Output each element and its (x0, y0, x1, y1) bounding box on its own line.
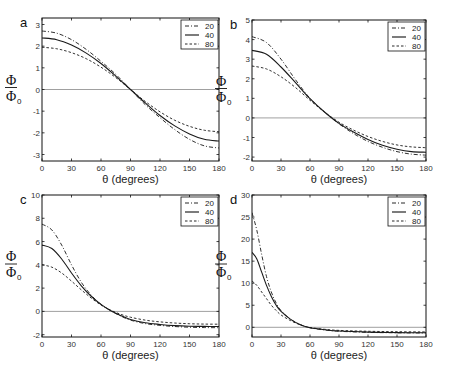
y-tick-label: 2 (36, 42, 41, 51)
svg-text:0: 0 (17, 97, 22, 106)
legend-label: 20 (412, 24, 421, 33)
series-line-40 (252, 50, 426, 152)
legend-label: 80 (205, 217, 214, 226)
panel-letter: c (20, 192, 27, 207)
y-tick-label: -3 (33, 151, 41, 160)
y-tick-label: 2 (36, 284, 41, 293)
x-tick-label: 30 (67, 340, 76, 349)
legend-label: 20 (205, 199, 214, 208)
x-tick-label: 90 (126, 340, 135, 349)
x-tick-label: 90 (126, 164, 135, 173)
x-tick-label: 120 (153, 340, 167, 349)
panel-c: 0306090120150180-20246810θ (degrees)cΦΦ0… (5, 191, 226, 361)
legend: 204080 (388, 197, 425, 226)
series-line-80 (252, 281, 426, 332)
y-tick-label: 5 (246, 301, 251, 310)
x-axis-label: θ (degrees) (102, 173, 158, 185)
y-tick-label: 0 (246, 114, 251, 123)
series-group (252, 37, 426, 155)
series-line-20 (252, 213, 426, 333)
y-tick-label: -2 (33, 331, 41, 340)
y-tick-label: -2 (33, 129, 41, 138)
y-tick-label: 1 (36, 64, 41, 73)
svg-text:0: 0 (227, 273, 232, 282)
legend-label: 20 (205, 22, 214, 31)
y-tick-label: -1 (33, 107, 41, 116)
y-tick-label: 5 (246, 16, 251, 25)
legend: 204080 (181, 20, 218, 49)
y-tick-label: -1 (243, 134, 251, 143)
legend-label: 80 (412, 217, 421, 226)
legend-label: 20 (412, 199, 421, 208)
panel-b: 0306090120150180-2-1012345θ (degrees)bΦΦ… (215, 16, 433, 185)
y-tick-label: 8 (36, 214, 41, 223)
x-tick-label: 0 (250, 164, 255, 173)
y-axis-label: ΦΦ0 (5, 73, 22, 106)
legend-label: 40 (205, 31, 214, 40)
y-tick-label: 6 (36, 238, 41, 247)
y-tick-label: 25 (241, 213, 250, 222)
x-tick-label: 90 (335, 340, 344, 349)
y-tick-label: 0 (36, 86, 41, 95)
y-tick-label: 15 (241, 257, 250, 266)
x-tick-label: 30 (277, 340, 286, 349)
panel-d: 0306090120150180051015202530θ (degrees)d… (215, 191, 433, 361)
x-tick-label: 180 (212, 164, 226, 173)
y-axis-label: ΦΦ0 (215, 74, 232, 107)
x-tick-label: 0 (40, 340, 45, 349)
svg-text:Φ: Φ (216, 265, 226, 280)
series-line-20 (42, 224, 219, 328)
series-line-40 (252, 252, 426, 332)
svg-text:Φ: Φ (6, 265, 16, 280)
x-tick-label: 0 (250, 340, 255, 349)
svg-text:Φ: Φ (6, 249, 16, 264)
x-axis-label: θ (degrees) (102, 349, 158, 361)
panel-a: 0306090120150180-3-2-10123θ (degrees)aΦΦ… (5, 15, 226, 185)
y-tick-label: 4 (36, 261, 41, 270)
x-tick-label: 120 (361, 340, 375, 349)
x-tick-label: 0 (40, 164, 45, 173)
y-axis-label: ΦΦ0 (5, 249, 22, 282)
legend-label: 40 (205, 208, 214, 217)
series-line-80 (252, 66, 426, 148)
legend: 204080 (181, 197, 218, 226)
series-line-80 (42, 265, 219, 324)
y-tick-label: 0 (36, 307, 41, 316)
x-tick-label: 30 (67, 164, 76, 173)
x-tick-label: 60 (97, 340, 106, 349)
legend-label: 40 (412, 33, 421, 42)
legend-label: 80 (205, 40, 214, 49)
panel-letter: b (230, 17, 237, 32)
series-group (42, 224, 219, 328)
x-tick-label: 60 (306, 340, 315, 349)
svg-text:Φ: Φ (6, 73, 16, 88)
x-tick-label: 60 (97, 164, 106, 173)
y-tick-label: 10 (31, 191, 40, 200)
svg-text:Φ: Φ (216, 74, 226, 89)
series-group (252, 213, 426, 333)
y-tick-label: 1 (246, 94, 251, 103)
y-tick-label: 30 (241, 191, 250, 200)
y-tick-label: 3 (246, 55, 251, 64)
x-tick-label: 120 (361, 164, 375, 173)
x-tick-label: 150 (183, 340, 197, 349)
panel-letter: a (20, 15, 28, 30)
x-tick-label: 30 (277, 164, 286, 173)
y-tick-label: -2 (243, 153, 251, 162)
y-tick-label: 0 (246, 323, 251, 332)
x-tick-label: 180 (419, 340, 433, 349)
svg-text:0: 0 (17, 273, 22, 282)
x-axis-label: θ (degrees) (311, 173, 367, 185)
x-tick-label: 180 (212, 340, 226, 349)
svg-text:0: 0 (227, 98, 232, 107)
x-axis-label: θ (degrees) (311, 349, 367, 361)
svg-text:Φ: Φ (216, 249, 226, 264)
y-tick-label: 3 (36, 21, 41, 30)
y-tick-label: 20 (241, 235, 250, 244)
series-line-20 (252, 37, 426, 155)
x-tick-label: 150 (390, 164, 404, 173)
figure-canvas: 0306090120150180-3-2-10123θ (degrees)aΦΦ… (0, 0, 450, 379)
y-tick-label: 2 (246, 75, 251, 84)
legend-label: 80 (412, 42, 421, 51)
legend-label: 40 (412, 208, 421, 217)
